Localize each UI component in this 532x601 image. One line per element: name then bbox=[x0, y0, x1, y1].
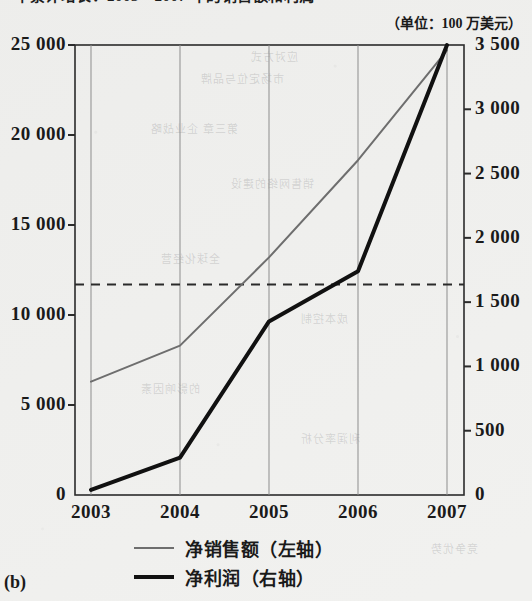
legend-line-swatch bbox=[134, 547, 174, 549]
y-axis-right-tick-label: 2 000 bbox=[475, 226, 520, 248]
y-axis-left-tick-label: 20 000 bbox=[11, 123, 66, 145]
y-axis-right-tick-label: 3 500 bbox=[475, 33, 520, 55]
y-axis-left-tick-label: 5 000 bbox=[21, 393, 66, 415]
y-axis-right-tick-label: 500 bbox=[475, 419, 505, 441]
legend-item: 净销售额（左轴） bbox=[134, 533, 333, 562]
y-axis-left-tick-label: 25 000 bbox=[11, 33, 66, 55]
x-axis-tick-label: 2005 bbox=[229, 501, 309, 523]
chart-legend: 净销售额（左轴）净利润（右轴） bbox=[134, 533, 333, 591]
y-axis-right-tick-label: 3 000 bbox=[475, 97, 520, 119]
x-axis-tick-label: 2006 bbox=[318, 501, 398, 523]
legend-item: 净利润（右轴） bbox=[134, 562, 333, 591]
x-axis-tick-label: 2003 bbox=[51, 501, 131, 523]
legend-line-swatch bbox=[134, 575, 174, 579]
x-axis-tick-label: 2007 bbox=[407, 501, 487, 523]
panel-label: (b) bbox=[4, 572, 26, 593]
legend-label: 净利润（右轴） bbox=[185, 564, 315, 590]
y-axis-left-tick-label: 10 000 bbox=[11, 303, 66, 325]
x-axis-tick-label: 2004 bbox=[140, 501, 220, 523]
y-axis-right-tick-label: 1 500 bbox=[475, 290, 520, 312]
y-axis-right-tick-label: 2 500 bbox=[475, 162, 520, 184]
legend-label: 净销售额（左轴） bbox=[185, 535, 333, 561]
y-axis-left-tick-label: 15 000 bbox=[11, 213, 66, 235]
line-chart: 05 00010 00015 00020 00025 00005001 0001… bbox=[0, 0, 532, 601]
y-axis-right-tick-label: 1 000 bbox=[475, 354, 520, 376]
